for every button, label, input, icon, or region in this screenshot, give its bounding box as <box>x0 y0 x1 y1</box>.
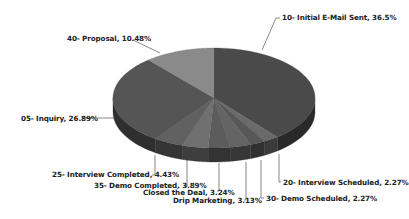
label-drip-marketing: Drip Marketing, 3.13% <box>173 196 262 205</box>
leader-initial-email <box>262 18 280 50</box>
label-demo-scheduled: 30- Demo Scheduled, 2.27% <box>266 194 377 203</box>
pie-top-face <box>113 48 315 148</box>
label-inquiry: 05- Inquiry, 26.89% <box>21 114 98 123</box>
label-initial-email: 10- Initial E-Mail Sent, 36.5% <box>282 13 397 22</box>
label-interview-completed: 25- Interview Completed, 4.43% <box>52 170 179 179</box>
pie-side-4 <box>208 147 230 162</box>
leader-drip <box>244 162 246 200</box>
leader-closed-deal <box>217 163 219 191</box>
pie-side-5 <box>182 145 208 161</box>
label-proposal: 40- Proposal, 10.48% <box>67 34 151 43</box>
leader-demo-scheduled <box>261 160 264 198</box>
leader-interview-scheduled <box>279 154 281 182</box>
label-interview-scheduled: 20- Interview Scheduled, 2.27% <box>283 178 409 187</box>
